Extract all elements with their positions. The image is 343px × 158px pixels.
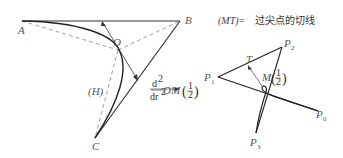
- title-text: 过尖点的切线: [255, 14, 315, 26]
- label-P2-sub: 2: [291, 44, 295, 52]
- left-figure: A B C O (H) d 2 dr 2 OM ( 1 2 ): [17, 14, 199, 152]
- M-arg-close: ): [282, 71, 287, 87]
- arg-close: ): [194, 84, 199, 100]
- label-H: (H): [88, 85, 104, 98]
- arg-den: 2: [188, 89, 193, 100]
- label-B: B: [185, 14, 192, 26]
- diagram-canvas: A B C O (H) d 2 dr 2 OM ( 1 2 ) (MT)= 过尖…: [0, 0, 343, 158]
- title-prefix: (MT)=: [218, 15, 245, 27]
- label-P1: P: [203, 71, 211, 83]
- bezier-cusp-curve: [256, 86, 318, 133]
- frac-denominator: dr: [150, 91, 159, 102]
- dashed-OB: [118, 21, 180, 50]
- label-P3: P: [249, 136, 257, 148]
- second-derivative-label: d 2 dr 2 OM ( 1 2 ): [150, 73, 199, 102]
- arrow-head-bottom: [133, 74, 138, 81]
- label-T: T: [246, 53, 253, 65]
- label-P0: P: [315, 108, 323, 120]
- normal-arrow-line: [103, 23, 137, 79]
- M-arg-den: 2: [276, 76, 281, 87]
- frac-numerator-exp: 2: [158, 73, 163, 84]
- label-A: A: [17, 24, 25, 36]
- label-P3-sub: 3: [257, 143, 261, 151]
- arg-open: (: [182, 84, 187, 100]
- tangent-arrow-head: [248, 65, 252, 70]
- label-C: C: [92, 140, 100, 152]
- tangent-MT: [249, 67, 262, 86]
- label-P0-sub: 0: [323, 115, 327, 123]
- label-O: O: [113, 36, 121, 48]
- vector-OM: OM: [163, 84, 181, 96]
- frac-numerator: d: [152, 78, 157, 89]
- label-P1-sub: 1: [211, 78, 215, 86]
- right-figure: (MT)= 过尖点的切线 P 1 P 2 P 0 P 3 T M ( 1 2 ): [203, 14, 327, 151]
- segment-P2P3: [256, 47, 282, 133]
- label-P2: P: [283, 37, 291, 49]
- arrow-head-top: [101, 21, 106, 26]
